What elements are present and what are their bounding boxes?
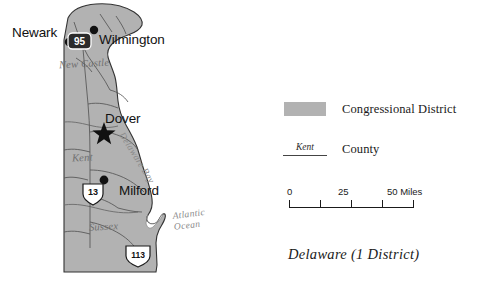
svg-text:95: 95 [74,36,86,47]
map-legend: Congressional District Kent County [283,96,479,162]
legend-label-congressional-district: Congressional District [342,102,456,117]
legend-label-county: County [342,142,379,157]
city-marker-wilmington [90,26,98,34]
legend-key-district [283,102,327,116]
city-label-newark: Newark [12,26,57,40]
city-label-wilmington: Wilmington [99,33,165,47]
scale-label-25: 25 [338,186,349,197]
figure-caption: Delaware (1 District) [288,246,419,263]
scale-tick-3 [382,200,383,208]
scale-tick-0 [289,200,290,208]
district-color-swatch [284,102,326,116]
scale-tick-2 [351,200,352,208]
map-scale-bar: 0 25 50 Miles [287,186,413,208]
city-label-milford: Milford [119,184,159,198]
scale-label-0: 0 [287,186,292,197]
scale-tick-1 [320,200,321,208]
water-label-atlantic-ocean: Atlantic Ocean [172,207,207,232]
legend-key-county: Kent [283,142,327,155]
scale-label-50-miles: 50 Miles [387,186,422,197]
county-label-kent: Kent [72,152,93,164]
legend-item-congressional-district: Congressional District [283,96,479,122]
svg-text:113: 113 [131,250,145,260]
county-label-sussex: Sussex [89,221,119,233]
map-panel: 95 13 113 Newark Wilmington Dover Milfor… [0,0,250,283]
scale-tick-4 [413,200,414,208]
legend-county-sample-name: Kent [296,142,314,152]
city-marker-milford [100,176,109,185]
svg-text:13: 13 [88,187,98,197]
scale-bar-axis [287,200,413,208]
legend-item-county: Kent County [283,136,479,162]
legend-county-underline [283,155,327,156]
delaware-congressional-district-map: 95 13 113 Newark Wilmington Dover Milfor… [0,0,479,283]
scale-bar-labels: 0 25 50 Miles [287,186,413,198]
city-label-dover: Dover [105,112,141,126]
highway-shield-95: 95 [68,33,91,49]
